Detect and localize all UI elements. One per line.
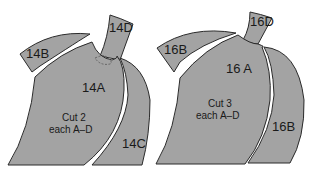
label-14c: 14C: [122, 136, 146, 151]
pattern-16: 16 A 16B 16B 16D Cut 3 each A–D: [156, 12, 304, 164]
label-16b-right: 16B: [272, 119, 295, 134]
label-16a: 16 A: [226, 61, 252, 76]
pattern-diagram: 14A 14B 14C 14D Cut 2 each A–D 16 A 16B …: [0, 0, 314, 178]
instruction-16-line2: each A–D: [196, 110, 239, 121]
label-16b-top: 16B: [164, 42, 187, 57]
instruction-16-line1: Cut 3: [208, 98, 232, 109]
label-14a: 14A: [82, 80, 105, 95]
instruction-14-line1: Cut 2: [62, 112, 86, 123]
pattern-14: 14A 14B 14C 14D Cut 2 each A–D: [8, 15, 150, 165]
label-14d: 14D: [109, 20, 133, 35]
label-14b: 14B: [26, 46, 49, 61]
instruction-14-line2: each A–D: [49, 124, 92, 135]
label-16d: 16D: [250, 14, 274, 29]
